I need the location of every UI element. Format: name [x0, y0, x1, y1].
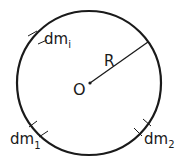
- ring-diagram: O R dmi dm1 dm2: [0, 0, 188, 165]
- radius-label: R: [104, 52, 114, 70]
- center-label: O: [73, 80, 86, 99]
- center-point: [88, 81, 91, 84]
- dm-i-label: dmi: [44, 30, 71, 50]
